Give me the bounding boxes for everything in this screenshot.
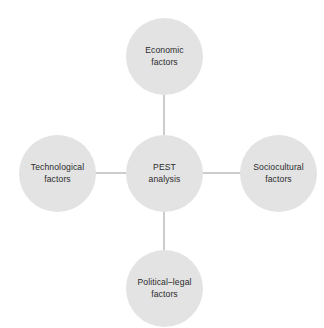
node-political-legal-factors: Political–legal factors bbox=[126, 250, 203, 327]
node-label-economic-factors: Economic factors bbox=[126, 45, 203, 68]
node-pest-analysis: PEST analysis bbox=[126, 135, 203, 212]
node-technological-factors: Technological factors bbox=[19, 135, 96, 212]
node-economic-factors: Economic factors bbox=[126, 18, 203, 95]
node-label-pest-analysis: PEST analysis bbox=[126, 162, 203, 185]
node-label-sociocultural-factors: Sociocultural factors bbox=[240, 162, 317, 185]
node-sociocultural-factors: Sociocultural factors bbox=[240, 135, 317, 212]
node-label-technological-factors: Technological factors bbox=[19, 162, 96, 185]
pest-analysis-diagram: Economic factors Technological factors P… bbox=[0, 0, 324, 328]
node-label-political-legal-factors: Political–legal factors bbox=[126, 277, 203, 300]
